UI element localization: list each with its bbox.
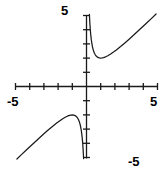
axes <box>16 16 158 159</box>
coordinate-plane <box>0 0 168 174</box>
y-axis-min-label: -5 <box>128 155 140 168</box>
x-axis-min-label: -5 <box>7 95 19 108</box>
curve-branch-2 <box>17 115 84 159</box>
graph-figure: 5 -5 -5 5 <box>0 0 168 174</box>
curve-branch-1 <box>89 14 156 58</box>
x-axis-max-label: 5 <box>150 95 157 108</box>
y-axis-max-label: 5 <box>61 4 68 17</box>
